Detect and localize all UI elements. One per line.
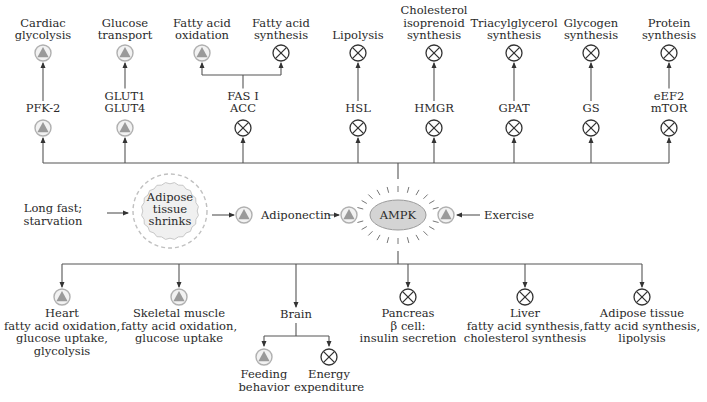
activate-triangle-icon-process-pfk-2	[35, 45, 51, 61]
tissue-label-skeletal-muscle: Skeletal musclefatty acid oxidation,gluc…	[121, 306, 237, 345]
process-label-fas-branch-1: Fatty acidsynthesis	[252, 16, 310, 43]
process-label-pfk-2: Cardiacglycolysis	[15, 16, 72, 43]
activate-triangle-icon-feeding-behavior	[256, 349, 272, 365]
process-label-fas-branch-0: Fatty acidoxidation	[173, 16, 231, 43]
exercise-label: Exercise	[484, 208, 534, 222]
inhibit-circled-x-icon-fas-branch-1	[273, 45, 289, 61]
activate-triangle-icon-pfk-2	[35, 120, 51, 136]
inhibit-circled-x-icon-process-eef2	[661, 45, 677, 61]
tissue-label-adipose-tissue: Adipose tissuefatty acid synthesis,lipol…	[584, 306, 700, 345]
inhibit-circled-x-icon-process-hsl	[350, 45, 366, 61]
diagram-labels: PFK-2CardiacglycolysisGLUT1GLUT4Glucoset…	[4, 3, 700, 394]
activate-triangle-icon-adiponectin	[236, 207, 252, 223]
enzyme-label-pfk-2: PFK-2	[26, 101, 61, 115]
tissue-label-heart: Heartfatty acid oxidation,glucose uptake…	[4, 306, 120, 358]
enzyme-label-hsl: HSL	[345, 101, 371, 115]
long-fast-label: Long fast;starvation	[24, 201, 83, 228]
activate-triangle-icon-heart	[54, 289, 70, 305]
ampk-label: AMPK	[379, 208, 417, 222]
adiponectin-label: Adiponectin	[260, 208, 332, 222]
inhibit-circled-x-icon-pancreas	[400, 289, 416, 305]
inhibit-circled-x-icon-energy-expenditure	[321, 349, 337, 365]
inhibit-circled-x-icon-gpat	[506, 120, 522, 136]
inhibit-circled-x-icon-hmgr	[426, 120, 442, 136]
activate-triangle-icon-fas-branch-0	[194, 45, 210, 61]
enzyme-label-glut1: GLUT1GLUT4	[105, 89, 146, 116]
process-label-eef2: Proteinsynthesis	[642, 16, 696, 43]
brain-effect-label-energy-expenditure: Energyexpenditure	[294, 367, 364, 394]
process-label-hsl: Lipolysis	[332, 28, 383, 42]
tissue-label-liver: Liverfatty acid synthesis,cholesterol sy…	[464, 306, 587, 345]
enzyme-label-gs: GS	[582, 101, 599, 115]
inhibit-circled-x-icon-process-gs	[583, 45, 599, 61]
inhibit-circled-x-icon-gs	[583, 120, 599, 136]
enzyme-label-hmgr: HMGR	[414, 101, 454, 115]
inhibit-circled-x-icon-hsl	[350, 120, 366, 136]
inhibit-circled-x-icon-adipose-tissue	[634, 289, 650, 305]
inhibit-circled-x-icon-fas-i	[235, 120, 251, 136]
activate-triangle-icon-ampk-right	[438, 207, 454, 223]
tissue-label-brain: Brain	[280, 307, 312, 321]
enzyme-label-gpat: GPAT	[498, 101, 530, 115]
inhibit-circled-x-icon-liver	[517, 289, 533, 305]
activate-triangle-icon-process-glut1	[117, 45, 133, 61]
process-label-glut1: Glucosetransport	[98, 16, 153, 43]
activate-triangle-icon-skeletal-muscle	[171, 289, 187, 305]
activate-triangle-icon-glut1	[117, 120, 133, 136]
inhibit-circled-x-icon-process-gpat	[506, 45, 522, 61]
ampk-regulation-diagram: PFK-2CardiacglycolysisGLUT1GLUT4Glucoset…	[0, 0, 707, 402]
enzyme-label-fas-i: FAS IACC	[227, 89, 258, 116]
process-label-gs: Glycogensynthesis	[564, 16, 619, 43]
brain-effect-label-feeding-behavior: Feedingbehavior	[238, 367, 290, 394]
enzyme-label-eef2: eEF2mTOR	[651, 89, 688, 116]
adipose-shrinks-label: Adiposetissueshrinks	[146, 190, 194, 228]
activate-triangle-icon-ampk-left	[341, 207, 357, 223]
inhibit-circled-x-icon-eef2	[661, 120, 677, 136]
tissue-label-pancreas: Pancreasβ cell:insulin secretion	[360, 306, 457, 345]
process-label-hmgr: Cholesterolisoprenoidsynthesis	[400, 3, 467, 42]
inhibit-circled-x-icon-process-hmgr	[426, 45, 442, 61]
process-label-gpat: Triacylglycerolsynthesis	[470, 16, 558, 43]
